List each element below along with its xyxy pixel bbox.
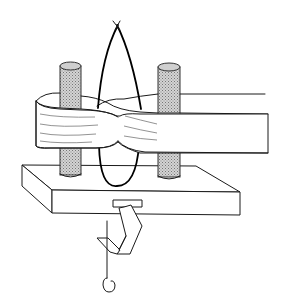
wire-loop — [98, 25, 141, 109]
diagram-figure: Line drawing of a flexible band looped i… — [0, 0, 291, 304]
right-post — [158, 63, 180, 113]
hook — [103, 221, 115, 292]
